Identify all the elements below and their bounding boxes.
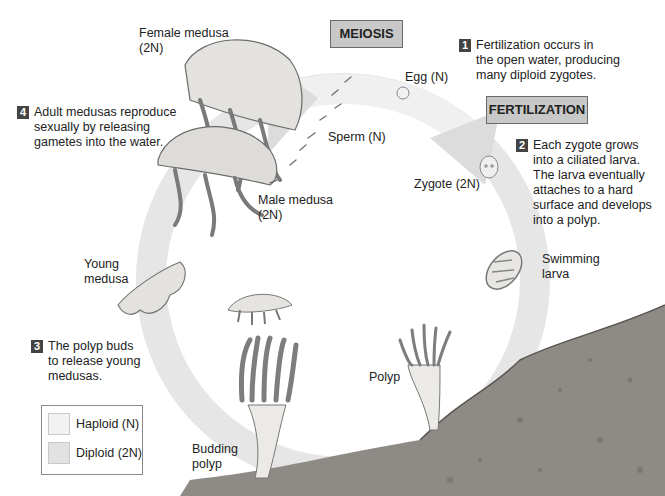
female-medusa-ploidy: (2N) [139, 41, 229, 56]
step-4-line: Adult medusas reproduce [34, 105, 176, 120]
step-2-line: Each zygote grows [533, 138, 652, 153]
step-1-badge: 1 [459, 39, 471, 52]
step-2-line: surface and develops [533, 198, 652, 213]
young-medusa-line-2: medusa [84, 272, 128, 287]
young-medusa-label: Young medusa [84, 257, 128, 287]
life-cycle-diagram: MEIOSIS FERTILIZATION Female medusa (2N)… [0, 0, 665, 496]
budding-polyp-label: Budding polyp [192, 442, 238, 472]
legend: Haploid (N) Diploid (2N) [41, 405, 143, 475]
legend-label: Diploid (2N) [76, 446, 142, 460]
step-1-text: Fertilization occurs in the open water, … [476, 38, 620, 83]
diploid-swatch [48, 442, 70, 464]
step-2-badge: 2 [516, 139, 528, 152]
step-2-line: into a ciliated larva. [533, 153, 652, 168]
step-4-text: Adult medusas reproduce sexually by rele… [34, 105, 176, 150]
zygote-label: Zygote (2N) [414, 177, 480, 192]
legend-item-diploid: Diploid (2N) [48, 442, 142, 464]
budding-polyp-line-2: polyp [192, 457, 238, 472]
step-3: 3 The polyp buds to release young medusa… [31, 339, 140, 384]
step-4: 4 Adult medusas reproduce sexually by re… [17, 105, 176, 150]
step-3-badge: 3 [31, 340, 43, 353]
step-1-line: many diploid zygotes. [476, 68, 620, 83]
female-medusa-label: Female medusa (2N) [139, 26, 229, 56]
step-1: 1 Fertilization occurs in the open water… [459, 38, 620, 83]
step-1-line: Fertilization occurs in [476, 38, 620, 53]
step-3-line: to release young [48, 354, 140, 369]
step-4-badge: 4 [17, 106, 29, 119]
fertilization-label: FERTILIZATION [486, 96, 588, 124]
step-2-line: attaches to a hard [533, 183, 652, 198]
polyp-label: Polyp [369, 370, 400, 385]
step-3-text: The polyp buds to release young medusas. [48, 339, 140, 384]
sperm-label: Sperm (N) [328, 130, 386, 145]
male-medusa-name: Male medusa [258, 193, 333, 208]
step-2-text: Each zygote grows into a ciliated larva.… [533, 138, 652, 228]
step-1-line: the open water, producing [476, 53, 620, 68]
legend-label: Haploid (N) [76, 417, 139, 431]
male-medusa-ploidy: (2N) [258, 208, 333, 223]
swimming-larva-line-1: Swimming [542, 252, 600, 267]
step-4-line: gametes into the water. [34, 135, 176, 150]
meiosis-label: MEIOSIS [330, 20, 403, 48]
egg-label: Egg (N) [405, 70, 448, 85]
egg-illustration [397, 87, 409, 99]
polyp-illustration [400, 325, 450, 430]
step-2: 2 Each zygote grows into a ciliated larv… [516, 138, 652, 228]
young-medusa-line-1: Young [84, 257, 128, 272]
zygote-illustration [480, 156, 498, 178]
step-2-line: The larva eventually [533, 168, 652, 183]
step-4-line: sexually by releasing [34, 120, 176, 135]
swimming-larva-label: Swimming larva [542, 252, 600, 282]
ephyra-illustration [228, 294, 292, 325]
budding-polyp-line-1: Budding [192, 442, 238, 457]
female-medusa-name: Female medusa [139, 26, 229, 41]
swimming-larva-line-2: larva [542, 267, 600, 282]
legend-item-haploid: Haploid (N) [48, 413, 139, 435]
step-3-line: The polyp buds [48, 339, 140, 354]
step-2-line: into a polyp. [533, 213, 652, 228]
male-medusa-label: Male medusa (2N) [258, 193, 333, 223]
step-3-line: medusas. [48, 369, 140, 384]
haploid-swatch [48, 413, 70, 435]
